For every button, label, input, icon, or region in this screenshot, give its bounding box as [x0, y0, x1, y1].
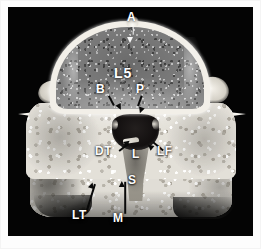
label-s-spinous-process: S — [128, 174, 137, 186]
label-b-basivertebral: B — [96, 83, 105, 95]
anatomical-figure: A L5 B P DT L LF S LT M — [0, 0, 261, 249]
label-p-posterior-margin: P — [136, 83, 145, 95]
canal-left-recess — [109, 119, 118, 130]
label-l-lamina: L — [132, 148, 140, 160]
label-lt-lateral-tubercle: LT — [72, 209, 87, 221]
label-m-mamillary-process: M — [113, 212, 124, 224]
canal-right-recess — [152, 118, 162, 130]
specimen-photograph: A L5 B P DT L LF S LT M — [8, 7, 253, 236]
inferior-notch-right — [173, 197, 235, 219]
label-l5-vertebral-body: L5 — [114, 66, 132, 80]
label-lf-ligamentum-flavum: LF — [157, 145, 173, 157]
vertebral-canal — [112, 114, 159, 150]
specimen-body — [8, 7, 253, 236]
label-a-anterior-apex: A — [127, 11, 136, 23]
label-dt-dural-tube: DT — [95, 145, 112, 157]
